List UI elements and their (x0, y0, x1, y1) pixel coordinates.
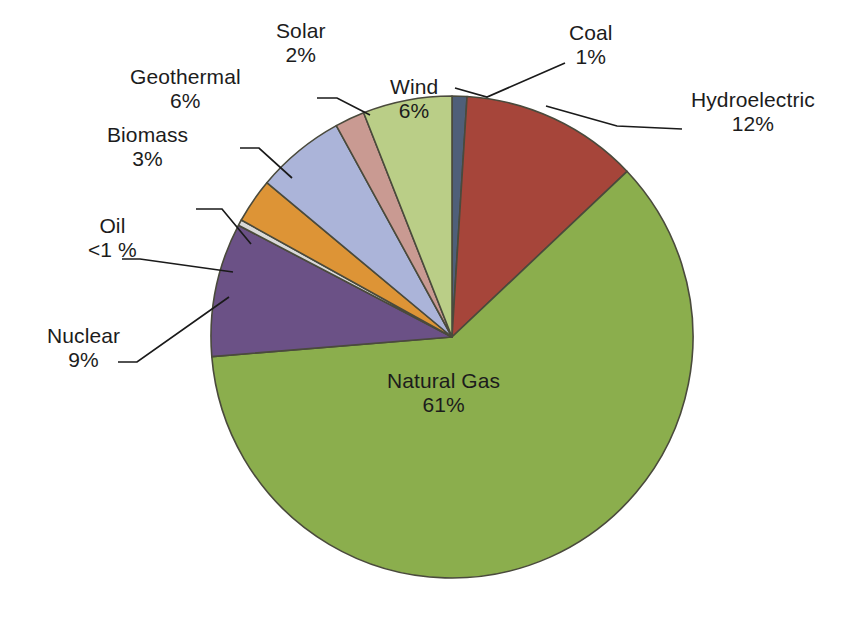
slice-label-name: Biomass (107, 123, 188, 147)
slice-label-wind: Wind6% (390, 75, 438, 124)
slice-label-hydroelectric: Hydroelectric12% (691, 88, 815, 137)
slice-label-value: 6% (390, 99, 438, 123)
slice-label-nuclear: Nuclear9% (47, 324, 120, 373)
leader-line-coal (455, 63, 565, 97)
slice-label-geothermal: Geothermal6% (130, 65, 241, 114)
slice-label-name: Wind (390, 75, 438, 99)
slice-label-value: 2% (276, 43, 326, 67)
slice-label-coal: Coal1% (569, 21, 613, 70)
slice-label-oil: Oil<1 % (88, 214, 137, 263)
slice-label-value: 61% (387, 393, 500, 417)
slice-label-value: 9% (47, 348, 120, 372)
slice-label-value: 3% (107, 147, 188, 171)
leader-line-oil (122, 259, 233, 272)
slice-label-value: <1 % (88, 238, 137, 262)
slice-label-value: 12% (691, 112, 815, 136)
pie-slices-group (211, 96, 693, 578)
slice-label-name: Geothermal (130, 65, 241, 89)
slice-label-name: Solar (276, 19, 326, 43)
slice-label-value: 1% (569, 45, 613, 69)
pie-chart-figure: Coal1%Hydroelectric12%Natural Gas61%Nucl… (0, 0, 861, 618)
slice-label-name: Nuclear (47, 324, 120, 348)
leader-line-solar (317, 98, 370, 115)
slice-label-biomass: Biomass3% (107, 123, 188, 172)
slice-label-name: Hydroelectric (691, 88, 815, 112)
slice-label-name: Natural Gas (387, 369, 500, 393)
slice-label-natural-gas: Natural Gas61% (387, 369, 500, 418)
slice-label-name: Oil (88, 214, 137, 238)
slice-label-value: 6% (130, 89, 241, 113)
slice-label-solar: Solar2% (276, 19, 326, 68)
slice-label-name: Coal (569, 21, 613, 45)
